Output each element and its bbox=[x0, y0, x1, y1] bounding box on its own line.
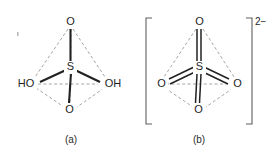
caption-structure-a: (a) bbox=[65, 134, 77, 145]
atom-label-oxygen-right: O bbox=[233, 77, 242, 89]
bond-s-left-hydroxyl bbox=[40, 70, 66, 82]
bond-s-left-oxygen-line2 bbox=[170, 72, 196, 85]
atom-label-oxygen-bottom: O bbox=[194, 103, 203, 115]
atom-label-oxygen-bottom: O bbox=[65, 103, 74, 115]
atom-label-hydroxyl-left: HO bbox=[18, 77, 35, 89]
edge-left-bottom bbox=[165, 88, 193, 107]
atom-label-hydroxyl-right: OH bbox=[105, 77, 122, 89]
caption-structure-b: (b) bbox=[193, 134, 205, 145]
bond-s-right-oxygen-line1 bbox=[204, 67, 229, 79]
atom-label-sulfur-center: S bbox=[196, 60, 203, 72]
bond-s-bottom-oxygen-line1 bbox=[196, 74, 198, 103]
atom-label-oxygen-apex: O bbox=[66, 15, 75, 27]
edge-right-bottom bbox=[77, 88, 104, 107]
edge-apex-left bbox=[162, 29, 196, 80]
bond-s-bottom-oxygen-line2 bbox=[200, 74, 202, 103]
molecular-structures-figure: O S HO OH O (a) 2− bbox=[0, 0, 278, 155]
bracket-right bbox=[246, 18, 252, 124]
edge-apex-right bbox=[203, 29, 236, 80]
structure-b: 2− O S bbox=[146, 15, 267, 145]
edge-left-bottom bbox=[36, 88, 64, 107]
atom-label-oxygen-apex: O bbox=[195, 15, 204, 27]
edge-right-bottom bbox=[206, 88, 233, 107]
structure-a: O S HO OH O (a) bbox=[15, 15, 124, 145]
bond-s-left-oxygen-line1 bbox=[169, 67, 194, 79]
atom-label-oxygen-left: O bbox=[157, 77, 166, 89]
atom-label-sulfur-center: S bbox=[67, 60, 74, 72]
charge-label: 2− bbox=[255, 16, 267, 27]
bond-s-bottom-oxygen bbox=[69, 73, 71, 103]
bracket-left bbox=[146, 18, 152, 124]
artifact-speck bbox=[17, 32, 19, 36]
bond-s-right-hydroxyl bbox=[75, 70, 100, 82]
